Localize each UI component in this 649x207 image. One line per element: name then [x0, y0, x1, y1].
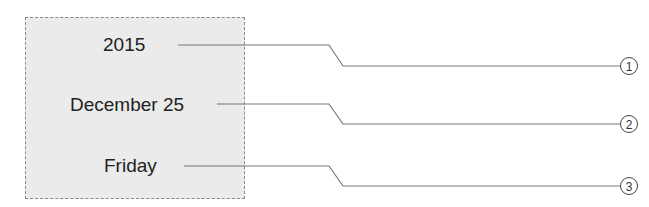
callout-number-1: 1 — [620, 57, 638, 75]
callout-number-3: 3 — [620, 177, 638, 195]
leader-line-2 — [217, 104, 621, 124]
leader-line-1 — [178, 45, 621, 66]
callout-number-2: 2 — [620, 115, 638, 133]
leader-lines — [0, 0, 649, 207]
leader-line-3 — [184, 166, 621, 186]
